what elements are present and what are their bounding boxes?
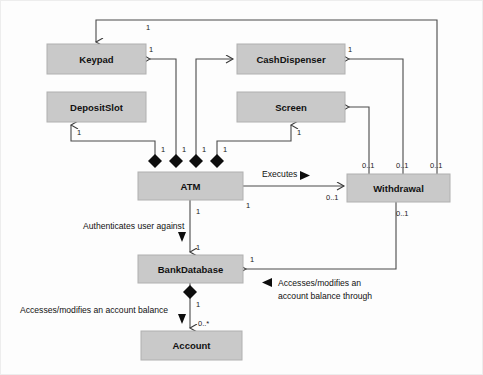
composition-diamond-screen [210, 154, 224, 168]
class-box-screen[interactable]: Screen [237, 92, 345, 122]
diagram-canvas: Keypad CashDispenser DepositSlot Screen … [0, 0, 483, 375]
multiplicity-atm-bankdatabase: 1 [196, 207, 200, 216]
class-box-withdrawal[interactable]: Withdrawal [347, 174, 450, 202]
direction-triangle-authenticates [178, 232, 186, 242]
class-box-atm-label: ATM [181, 181, 201, 192]
multiplicity-withdrawal-top-1: 0..1 [362, 161, 375, 170]
multiplicity-withdrawal-left: 0..1 [326, 193, 339, 202]
multiplicity-withdrawal-bottom: 0..1 [396, 209, 409, 218]
direction-triangle-accesses-balance [178, 314, 186, 324]
multiplicity-account-top: 0..* [198, 319, 209, 328]
uml-class-diagram: Keypad CashDispenser DepositSlot Screen … [0, 0, 483, 375]
multiplicity-atm-diamond-1: 1 [161, 145, 165, 154]
class-box-withdrawal-label: Withdrawal [373, 183, 424, 194]
class-box-bankdatabase[interactable]: BankDatabase [138, 255, 243, 283]
association-label-accesses-balance: Accesses/modifies an account balance [20, 305, 168, 315]
composition-diamond-bankdatabase-account [183, 285, 197, 299]
association-label-accesses-through-line1: Accesses/modifies an [278, 278, 361, 288]
class-box-keypad-label: Keypad [79, 54, 114, 65]
class-box-screen-label: Screen [275, 102, 307, 113]
multiplicity-bankdatabase-top: 1 [196, 243, 200, 252]
class-box-atm[interactable]: ATM [138, 172, 243, 200]
class-box-bankdatabase-label: BankDatabase [158, 264, 223, 275]
edge-withdrawal-bankdatabase [246, 202, 396, 269]
multiplicity-atm-diamond-4: 1 [223, 145, 227, 154]
multiplicity-atm-diamond-3: 1 [202, 145, 206, 154]
multiplicity-bankdatabase-account: 1 [196, 300, 200, 309]
composition-diamond-keypad [148, 154, 162, 168]
edge-atm-screen [217, 125, 291, 155]
class-box-account[interactable]: Account [141, 331, 242, 360]
composition-diamond-cashdispenser [189, 154, 203, 168]
composition-diamond-depositslot [169, 154, 183, 168]
edge-atm-depositslot [71, 125, 155, 155]
direction-triangle-executes [300, 171, 310, 180]
class-box-keypad[interactable]: Keypad [47, 44, 146, 74]
association-label-authenticates: Authenticates user against [83, 221, 185, 231]
association-label-accesses-through-line2: account balance through [278, 291, 372, 301]
edge-withdrawal-cashdispenser [349, 59, 403, 174]
multiplicity-depositslot-bottom: 1 [77, 128, 81, 137]
class-box-cashdispenser-label: CashDispenser [256, 54, 325, 65]
multiplicity-withdrawal-top-3: 0..1 [430, 161, 443, 170]
multiplicity-withdrawal-top-2: 0..1 [396, 161, 409, 170]
multiplicity-cashdispenser-right: 1 [348, 45, 352, 54]
multiplicity-atm-diamond-2: 1 [182, 145, 186, 154]
class-box-depositslot-label: DepositSlot [70, 102, 124, 113]
direction-triangle-accesses-through [262, 278, 272, 287]
multiplicity-atm-right: 1 [246, 201, 250, 210]
association-label-executes: Executes [262, 169, 297, 179]
multiplicity-keypad-right: 1 [149, 45, 153, 54]
multiplicity-keypad-top: 1 [146, 23, 150, 32]
class-box-account-label: Account [173, 340, 212, 351]
class-box-depositslot[interactable]: DepositSlot [47, 92, 146, 122]
class-box-cashdispenser[interactable]: CashDispenser [237, 44, 345, 74]
multiplicity-bankdatabase-right: 1 [250, 255, 254, 264]
multiplicity-screen-bottom: 1 [297, 128, 301, 137]
